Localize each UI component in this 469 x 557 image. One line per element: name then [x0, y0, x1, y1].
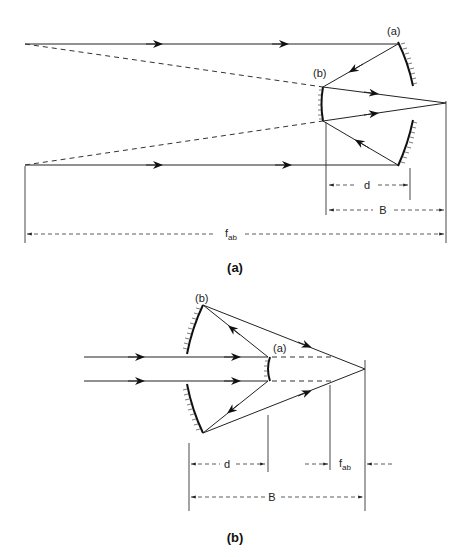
label-primary-mirror: (b)	[195, 292, 208, 304]
primary-mirror-b	[183, 305, 203, 433]
caption-a: (a)	[227, 260, 243, 275]
dimension-B-a: B	[329, 204, 444, 216]
dimension-fab-b: fab	[305, 457, 392, 472]
dimension-d-b: d	[191, 458, 265, 470]
virtual-ray-bottom	[25, 121, 323, 165]
label-secondary-mirror: (a)	[273, 342, 286, 354]
label-B: B	[268, 491, 275, 503]
label-B: B	[379, 204, 386, 216]
label-primary-mirror: (a)	[387, 25, 400, 37]
arrow-icon	[231, 404, 239, 410]
secondary-mirror-b	[318, 87, 323, 121]
converging-ray-top	[323, 87, 446, 103]
arrow-icon	[298, 342, 307, 346]
incoming-rays	[25, 44, 398, 165]
figure-a: d B fab (a) (b) (a)	[25, 25, 446, 275]
arrow-icon	[359, 142, 369, 148]
secondary-mirror-a	[264, 357, 270, 381]
virtual-ray-top	[25, 44, 323, 87]
converging-ray-top	[203, 305, 365, 369]
converging-ray-bottom	[323, 103, 446, 121]
dimension-B-b: B	[191, 491, 363, 503]
label-secondary-mirror: (b)	[313, 67, 326, 79]
caption-b: (b)	[227, 530, 244, 545]
label-d: d	[224, 458, 230, 470]
label-fab: fab	[339, 457, 352, 472]
label-d: d	[364, 179, 370, 191]
arrow-icon	[232, 329, 240, 335]
figure-b: d fab B (b) (a) (b)	[84, 292, 392, 545]
arrow-icon	[298, 392, 307, 396]
two-mirror-telescope-diagram: d B fab (a) (b) (a)	[0, 0, 469, 557]
label-fab: fab	[225, 227, 238, 242]
arrow-icon	[364, 114, 374, 115]
dimension-fab-a: fab	[27, 227, 444, 242]
primary-mirror-a	[398, 42, 417, 166]
arrow-icon	[353, 64, 363, 70]
dimension-d-a: d	[329, 179, 408, 191]
arrow-icon	[364, 92, 374, 93]
converging-ray-bottom	[203, 369, 365, 433]
